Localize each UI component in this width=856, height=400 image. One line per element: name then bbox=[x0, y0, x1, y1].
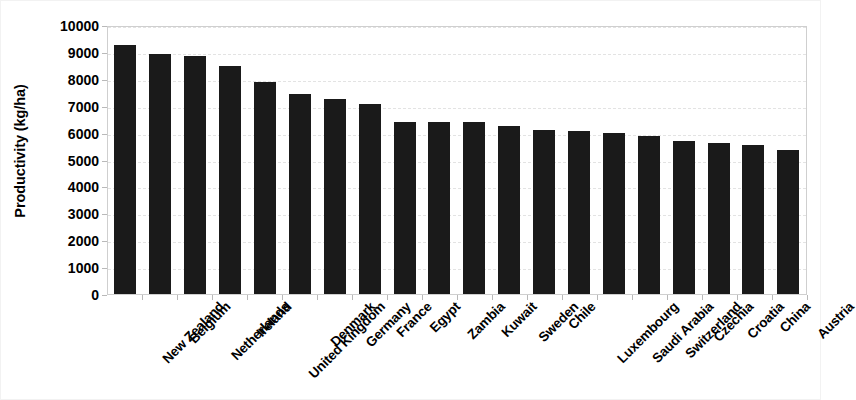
x-tick-label: Zambia bbox=[464, 299, 507, 342]
y-tick-mark bbox=[102, 187, 107, 188]
x-tick-label: Ireland bbox=[253, 299, 294, 340]
y-tick-label: 2000 bbox=[68, 233, 99, 249]
bar bbox=[359, 104, 381, 294]
y-tick-label: 6000 bbox=[68, 126, 99, 142]
bar bbox=[533, 130, 555, 294]
x-tick-label: Egypt bbox=[426, 299, 462, 335]
y-axis-tick-labels: 1000090008000700060005000400030002000100… bbox=[29, 26, 103, 295]
bar bbox=[428, 122, 450, 294]
y-tick-mark bbox=[102, 214, 107, 215]
y-tick-label: 1000 bbox=[68, 260, 99, 276]
bar bbox=[254, 82, 276, 294]
bar bbox=[603, 133, 625, 294]
bar bbox=[324, 99, 346, 294]
bar bbox=[394, 122, 416, 294]
x-tick-label: Kuwait bbox=[498, 299, 539, 340]
bar bbox=[498, 126, 520, 294]
y-tick-label: 10000 bbox=[60, 18, 99, 34]
bar bbox=[638, 136, 660, 294]
y-tick-mark bbox=[102, 53, 107, 54]
bar bbox=[114, 45, 136, 294]
y-tick-mark bbox=[102, 26, 107, 27]
y-tick-label: 4000 bbox=[68, 179, 99, 195]
y-tick-mark bbox=[102, 80, 107, 81]
bar bbox=[568, 131, 590, 294]
bar bbox=[463, 122, 485, 294]
x-tick-mark bbox=[807, 295, 808, 300]
y-tick-label: 0 bbox=[91, 287, 99, 303]
y-tick-mark bbox=[102, 161, 107, 162]
bar bbox=[184, 56, 206, 294]
plot-area bbox=[107, 26, 807, 295]
y-tick-label: 8000 bbox=[68, 72, 99, 88]
x-axis-tick-labels: New ZealandBelgiumNetherlandsIrelandUnit… bbox=[107, 297, 807, 397]
bar bbox=[149, 54, 171, 294]
y-axis-title-text: Productivity (kg/ha) bbox=[12, 84, 28, 217]
bars-container bbox=[108, 27, 806, 294]
bar bbox=[289, 94, 311, 294]
y-tick-label: 5000 bbox=[68, 153, 99, 169]
x-tick-label: Austria bbox=[814, 299, 856, 342]
bar bbox=[742, 145, 764, 294]
y-tick-mark bbox=[102, 107, 107, 108]
bar bbox=[219, 66, 241, 294]
y-tick-label: 9000 bbox=[68, 45, 99, 61]
bar bbox=[708, 143, 730, 294]
y-tick-mark bbox=[102, 134, 107, 135]
y-tick-mark bbox=[102, 295, 107, 296]
bar bbox=[777, 150, 799, 294]
bar bbox=[673, 141, 695, 294]
y-tick-mark bbox=[102, 241, 107, 242]
y-tick-label: 3000 bbox=[68, 206, 99, 222]
y-tick-label: 7000 bbox=[68, 99, 99, 115]
y-tick-mark bbox=[102, 268, 107, 269]
